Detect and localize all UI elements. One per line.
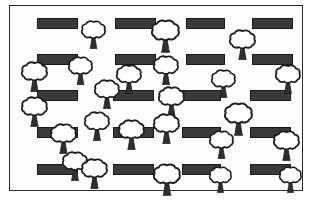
tree-04 — [21, 61, 48, 93]
tree-16 — [118, 119, 145, 151]
building-r2c3 — [186, 54, 225, 65]
building-r1c1 — [37, 18, 78, 29]
plot-area — [10, 6, 302, 190]
tree-05 — [68, 56, 93, 86]
tree-19 — [273, 130, 300, 162]
building-r1c2 — [115, 18, 156, 29]
diagram-canvas — [0, 0, 315, 203]
tree-24 — [279, 166, 302, 194]
tree-02 — [151, 19, 180, 54]
tree-10 — [21, 96, 48, 128]
tree-23 — [209, 166, 232, 194]
tree-07 — [153, 55, 179, 86]
building-r1c3 — [186, 18, 225, 29]
tree-03 — [229, 29, 256, 61]
building-r1c4 — [252, 18, 293, 29]
tree-08 — [211, 69, 236, 99]
tree-11 — [94, 79, 120, 110]
tree-01 — [81, 20, 106, 50]
tree-21 — [81, 158, 108, 190]
tree-09 — [275, 64, 301, 95]
tree-17 — [153, 113, 180, 145]
tree-22 — [153, 163, 181, 197]
tree-14 — [84, 111, 110, 142]
site-plan-frame — [9, 5, 303, 191]
tree-18 — [209, 130, 234, 160]
building-r5c2 — [113, 164, 154, 175]
